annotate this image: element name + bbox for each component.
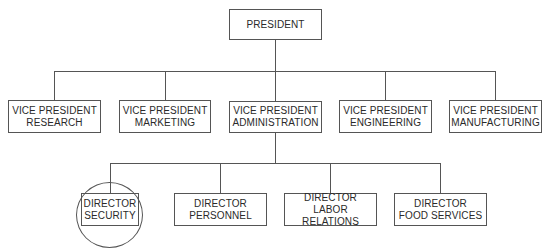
connector-vp-manufacturing — [495, 71, 496, 100]
node-vp-marketing: VICE PRESIDENT MARKETING — [119, 100, 211, 133]
node-line2: LABOR RELATIONS — [285, 204, 376, 228]
connector-vp-research — [54, 71, 55, 100]
node-line2: PERSONNEL — [189, 210, 252, 222]
connector-director-horizontal — [110, 163, 441, 164]
node-title: PRESIDENT — [246, 19, 304, 31]
node-vp-administration: VICE PRESIDENT ADMINISTRATION — [229, 101, 322, 133]
connector-director-food-services — [440, 163, 441, 193]
node-director-labor-relations: DIRECTOR LABOR RELATIONS — [284, 193, 377, 226]
node-line1: DIRECTOR — [304, 192, 357, 204]
node-line2: FOOD SERVICES — [399, 210, 482, 222]
node-line1: VICE PRESIDENT — [233, 105, 318, 117]
connector-director-personnel — [220, 163, 221, 193]
node-line1: DIRECTOR — [194, 198, 247, 210]
node-president: PRESIDENT — [229, 9, 322, 40]
node-vp-manufacturing: VICE PRESIDENT MANUFACTURING — [449, 100, 542, 133]
node-director-personnel: DIRECTOR PERSONNEL — [174, 193, 267, 226]
node-line1: VICE PRESIDENT — [123, 105, 208, 117]
node-vp-research: VICE PRESIDENT RESEARCH — [8, 100, 101, 133]
node-line1: DIRECTOR — [414, 198, 467, 210]
node-vp-engineering: VICE PRESIDENT ENGINEERING — [339, 100, 432, 133]
node-director-food-services: DIRECTOR FOOD SERVICES — [394, 193, 487, 226]
node-line2: MARKETING — [135, 117, 195, 129]
node-line1: VICE PRESIDENT — [12, 105, 97, 117]
node-line1: VICE PRESIDENT — [343, 105, 428, 117]
node-line2: RESEARCH — [26, 117, 82, 129]
connector-admin-down — [275, 132, 276, 163]
node-line2: ENGINEERING — [350, 117, 421, 129]
connector-vp-administration — [275, 71, 276, 101]
node-line2: MANUFACTURING — [451, 117, 540, 129]
connector-director-labor-relations — [330, 163, 331, 193]
node-line1: VICE PRESIDENT — [453, 105, 538, 117]
connector-president-down — [275, 39, 276, 71]
node-line2: ADMINISTRATION — [232, 117, 318, 129]
connector-vp-marketing — [165, 71, 166, 100]
connector-vp-engineering — [385, 71, 386, 100]
highlight-circle — [76, 182, 143, 248]
